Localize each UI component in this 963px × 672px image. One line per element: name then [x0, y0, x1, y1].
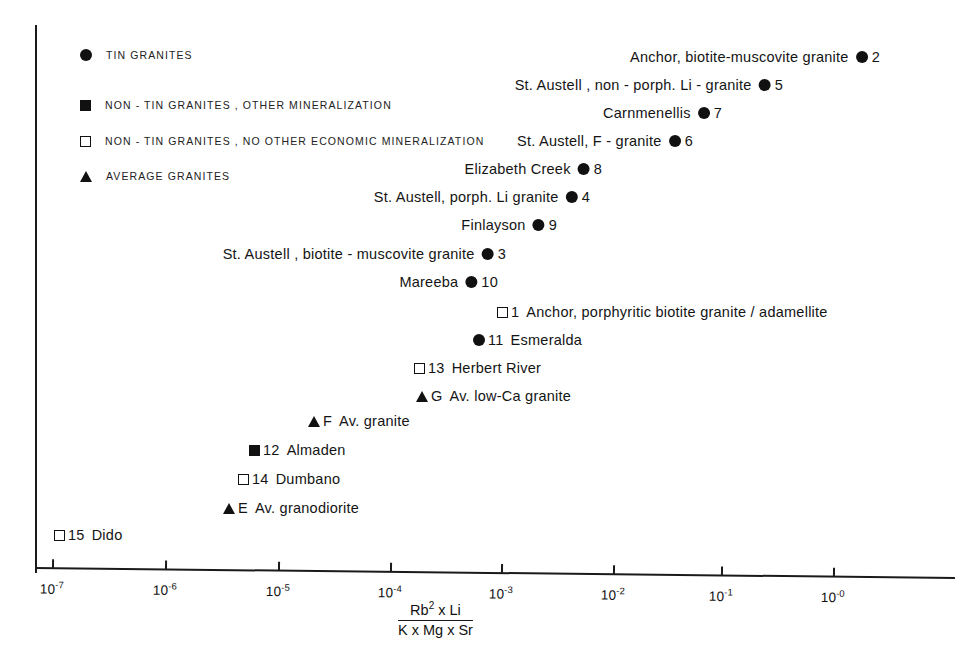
x-tick-label: 10-4: [378, 583, 402, 601]
data-point-9[interactable]: Finlayson9: [461, 217, 557, 233]
data-point-number: F: [320, 413, 332, 429]
x-tick-label: 10-1: [709, 586, 733, 604]
data-point-label: Herbert River: [445, 360, 541, 376]
legend-item-average-granites: AVERAGE GRANITES: [80, 170, 230, 182]
filled-circle-icon: [669, 135, 681, 147]
filled-square-icon: [249, 445, 260, 456]
data-point-number: 8: [590, 161, 602, 177]
data-point-F[interactable]: FAv. granite: [308, 413, 410, 429]
x-axis-tick: [278, 562, 280, 571]
data-point-13[interactable]: 13Herbert River: [414, 360, 541, 376]
data-point-3[interactable]: St. Austell , biotite - muscovite granit…: [223, 246, 506, 262]
data-point-number: 2: [868, 49, 880, 65]
data-point-number: 12: [260, 442, 280, 458]
filled-square-icon: [80, 100, 91, 111]
x-axis-tick: [721, 566, 723, 575]
data-point-number: 7: [710, 105, 722, 121]
data-point-number: E: [235, 500, 248, 516]
data-point-label: St. Austell , biotite - muscovite granit…: [223, 246, 482, 262]
data-point-G[interactable]: GAv. low-Ca granite: [416, 388, 571, 404]
x-tick-label: 10-2: [601, 585, 625, 603]
data-point-label: Finlayson: [461, 217, 532, 233]
x-axis-tick: [613, 565, 615, 574]
data-point-number: 1: [508, 304, 519, 320]
data-point-number: 15: [65, 527, 85, 543]
filled-circle-icon: [856, 51, 868, 63]
data-point-label: Carnmenellis: [603, 105, 698, 121]
data-point-2[interactable]: Anchor, biotite-muscovite granite2: [630, 49, 880, 65]
open-square-icon: [497, 307, 508, 318]
x-axis-line: 10-7 10-6 10-5 10-4 10-3 10-2 10-1 10-0: [35, 567, 955, 579]
x-axis-tick: [52, 559, 54, 568]
data-point-number: 10: [477, 274, 498, 290]
x-tick-label: 10-7: [40, 579, 64, 597]
x-axis-title-numerator: Rb2 x Li: [398, 600, 473, 621]
data-point-label: Av. granite: [332, 413, 410, 429]
data-point-number: 5: [771, 77, 783, 93]
x-axis-tick: [165, 560, 167, 569]
x-axis-tick: [833, 568, 835, 577]
data-point-number: 6: [681, 133, 693, 149]
x-axis-tick: [501, 564, 503, 573]
data-point-10[interactable]: Mareeba10: [399, 274, 498, 290]
filled-circle-icon: [80, 49, 92, 61]
data-point-15[interactable]: 15Dido: [54, 527, 122, 543]
filled-circle-icon: [566, 191, 578, 203]
open-square-icon: [54, 530, 65, 541]
data-point-number: 14: [249, 471, 269, 487]
filled-circle-icon: [465, 276, 477, 288]
filled-triangle-icon: [308, 416, 320, 427]
data-point-label: Mareeba: [399, 274, 465, 290]
legend-item-label: AVERAGE GRANITES: [106, 170, 230, 182]
data-point-label: Dumbano: [269, 471, 341, 487]
data-point-number: 3: [494, 246, 506, 262]
legend-item-tin-granites: TIN GRANITES: [80, 49, 193, 61]
filled-triangle-icon: [223, 503, 235, 514]
y-axis-line: [35, 25, 37, 573]
data-point-11[interactable]: 11Esmeralda: [473, 332, 582, 348]
data-point-label: St. Austell, F - granite: [517, 133, 669, 149]
open-square-icon: [238, 474, 249, 485]
data-point-label: Almaden: [280, 442, 346, 458]
filled-circle-icon: [578, 163, 590, 175]
data-point-E[interactable]: EAv. granodiorite: [223, 500, 359, 516]
data-point-14[interactable]: 14Dumbano: [238, 471, 340, 487]
data-point-7[interactable]: Carnmenellis7: [603, 105, 722, 121]
data-point-8[interactable]: Elizabeth Creek8: [465, 161, 602, 177]
data-point-6[interactable]: St. Austell, F - granite6: [517, 133, 693, 149]
filled-circle-icon: [759, 79, 771, 91]
x-tick-label: 10-3: [489, 584, 513, 602]
legend-item-non-tin-no-economic-mineralization: NON - TIN GRANITES , NO OTHER ECONOMIC M…: [80, 135, 484, 147]
chart-figure: 10-7 10-6 10-5 10-4 10-3 10-2 10-1 10-0 …: [0, 0, 963, 672]
open-square-icon: [414, 363, 425, 374]
data-point-number: 4: [578, 189, 590, 205]
data-point-label: Av. low-Ca granite: [443, 388, 572, 404]
legend-item-label: NON - TIN GRANITES , NO OTHER ECONOMIC M…: [105, 135, 484, 147]
open-square-icon: [80, 136, 91, 147]
data-point-label: St. Austell, porph. Li granite: [374, 189, 566, 205]
filled-triangle-icon: [80, 171, 92, 182]
data-point-1[interactable]: 1Anchor, porphyritic biotite granite / a…: [497, 304, 828, 320]
x-tick-label: 10-6: [153, 580, 177, 598]
data-point-4[interactable]: St. Austell, porph. Li granite4: [374, 189, 590, 205]
data-point-label: Av. granodiorite: [248, 500, 359, 516]
data-point-label: Dido: [85, 527, 123, 543]
filled-circle-icon: [482, 248, 494, 260]
data-point-label: Elizabeth Creek: [465, 161, 578, 177]
x-tick-label: 10-0: [821, 588, 845, 606]
data-point-label: Anchor, porphyritic biotite granite / ad…: [519, 304, 827, 320]
filled-circle-icon: [533, 219, 545, 231]
data-point-label: Anchor, biotite-muscovite granite: [630, 49, 856, 65]
x-axis-title-denominator: K x Mg x Sr: [398, 621, 473, 639]
legend-item-non-tin-other-mineralization: NON - TIN GRANITES , OTHER MINERALIZATIO…: [80, 99, 392, 111]
data-point-12[interactable]: 12Almaden: [249, 442, 346, 458]
filled-circle-icon: [698, 107, 710, 119]
x-axis-title: Rb2 x Li K x Mg x Sr: [398, 600, 473, 639]
x-axis-tick: [390, 563, 392, 572]
data-point-number: G: [428, 388, 443, 404]
filled-triangle-icon: [416, 391, 428, 402]
data-point-number: 13: [425, 360, 445, 376]
data-point-5[interactable]: St. Austell , non - porph. Li - granite5: [515, 77, 783, 93]
data-point-label: Esmeralda: [504, 332, 583, 348]
x-tick-label: 10-5: [266, 581, 290, 599]
